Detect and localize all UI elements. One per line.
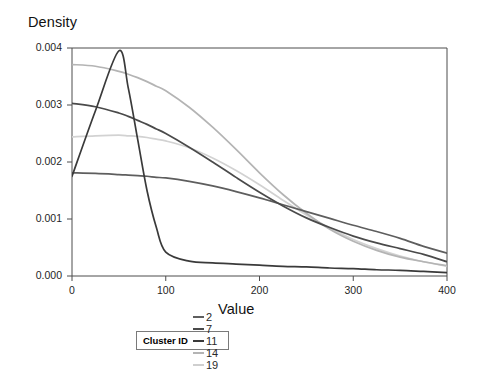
legend-label: 7 [206, 323, 212, 335]
legend-entry[interactable]: 19 [193, 359, 218, 371]
legend-swatch-icon [193, 340, 204, 342]
legend: Cluster ID 27111419 [136, 331, 229, 350]
legend-entry[interactable]: 2 [193, 311, 218, 323]
series-line [72, 50, 447, 272]
legend-label: 14 [206, 347, 218, 359]
legend-swatch-icon [193, 328, 204, 330]
plot-border [72, 48, 447, 276]
legend-swatch-icon [193, 364, 204, 366]
legend-label: 11 [206, 335, 217, 347]
legend-swatch-icon [193, 316, 204, 318]
legend-label: 2 [206, 311, 212, 323]
legend-label: 19 [206, 359, 218, 371]
series-line [72, 103, 447, 261]
series-lines [72, 50, 447, 272]
legend-title: Cluster ID [143, 335, 188, 346]
plot-frame [72, 48, 447, 276]
legend-entry[interactable]: 7 [193, 323, 218, 335]
legend-entry[interactable]: 11 [193, 335, 218, 347]
legend-swatch-icon [193, 352, 204, 354]
legend-entries: 27111419 [193, 311, 222, 371]
legend-entry[interactable]: 14 [193, 347, 218, 359]
